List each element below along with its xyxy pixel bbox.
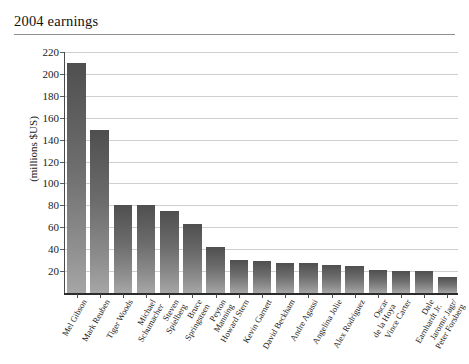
bar (206, 247, 225, 293)
plot-area: 20406080100120140160180200220 (64, 52, 458, 293)
y-tick-label: 160 (43, 112, 60, 124)
bar (345, 266, 364, 293)
bar (67, 63, 86, 293)
bar (114, 205, 133, 293)
y-tick-label: 100 (43, 177, 60, 189)
bar (183, 224, 202, 293)
y-axis-label: (millions $US) (27, 69, 39, 229)
bar (230, 260, 249, 293)
bar (90, 130, 109, 293)
bar (392, 271, 411, 293)
y-tick-label: 200 (43, 68, 60, 80)
bar (438, 277, 457, 293)
y-tick-label: 220 (43, 46, 60, 58)
y-tick-label: 140 (43, 134, 60, 146)
bar (160, 211, 179, 293)
title-divider (14, 34, 455, 35)
y-tick-label: 120 (43, 156, 60, 168)
chart-title-block: 2004 earnings (14, 13, 455, 35)
chart-figure: 2004 earnings (millions $US) 20406080100… (0, 0, 469, 364)
bar (415, 271, 434, 293)
y-tick-label: 40 (48, 243, 59, 255)
page-title: 2004 earnings (14, 13, 455, 29)
bar (253, 261, 272, 293)
bar (276, 263, 295, 293)
bar-series (65, 52, 458, 293)
bar (137, 205, 156, 293)
y-tick-label: 180 (43, 90, 60, 102)
y-tick-label: 80 (48, 199, 59, 211)
bar (322, 265, 341, 293)
bar (369, 270, 388, 293)
x-axis-labels: Mel GibsonMark ReubenTiger WoodsMichaelS… (64, 298, 458, 364)
y-tick-label: 20 (48, 265, 59, 277)
bar (299, 263, 318, 293)
y-tick-label: 60 (48, 221, 59, 233)
